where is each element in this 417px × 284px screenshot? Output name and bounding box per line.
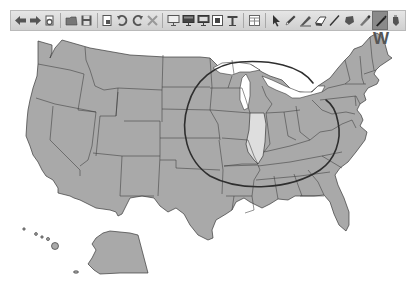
arrow-right-icon [29, 14, 42, 27]
table-icon [248, 14, 261, 27]
new-page-button[interactable] [101, 12, 116, 29]
marker-button[interactable] [372, 11, 389, 30]
forward-button[interactable] [28, 12, 43, 29]
monitor-icon [167, 14, 180, 27]
insert-image-button[interactable] [211, 12, 226, 29]
toolbar-separator [243, 13, 244, 28]
creative-pen-button[interactable] [298, 12, 313, 29]
monitor-filled-icon [182, 14, 195, 27]
redo-button[interactable] [130, 12, 145, 29]
delete-button[interactable] [145, 12, 160, 29]
eraser-icon [314, 14, 327, 27]
highlighter-button[interactable] [357, 12, 372, 29]
calligraphy-pen-icon [299, 14, 312, 27]
text-t-icon [226, 14, 239, 27]
highlighter-icon [358, 14, 371, 27]
text-tool-button[interactable] [225, 12, 240, 29]
eraser-button[interactable] [313, 12, 328, 29]
folder-icon [65, 14, 78, 27]
toolbar [10, 10, 406, 31]
cursor-w-label: W [373, 29, 388, 49]
alaska [88, 231, 148, 274]
continental-us [26, 33, 392, 240]
toolbar-separator [265, 13, 266, 28]
pen-tool-button[interactable] [283, 12, 298, 29]
undo-button[interactable] [115, 12, 130, 29]
marker-icon [374, 14, 387, 27]
shape-icon [343, 14, 356, 27]
presentation-button[interactable] [196, 12, 211, 29]
page-icon [101, 14, 114, 27]
line-tool-button[interactable] [328, 12, 343, 29]
open-button[interactable] [64, 12, 79, 29]
x-icon [146, 14, 159, 27]
line-icon [328, 14, 341, 27]
undo-icon [116, 14, 129, 27]
select-tool-button[interactable] [269, 12, 284, 29]
redo-icon [131, 14, 144, 27]
pen-icon [284, 14, 297, 27]
table-button[interactable] [247, 12, 262, 29]
display-button[interactable] [181, 12, 196, 29]
back-button[interactable] [13, 12, 28, 29]
fill-button[interactable] [388, 12, 403, 29]
toolbar-separator [97, 13, 98, 28]
whiteboard-canvas[interactable]: W [0, 0, 417, 284]
paint-bucket-icon [389, 14, 402, 27]
arrow-left-icon [14, 14, 27, 27]
refresh-button[interactable] [42, 12, 57, 29]
floppy-disk-icon [80, 14, 93, 27]
pointer-icon [270, 14, 283, 27]
us-map[interactable] [0, 0, 417, 284]
refresh-icon [43, 14, 56, 27]
monitor-stand-icon [197, 14, 210, 27]
save-button[interactable] [79, 12, 94, 29]
toolbar-separator [60, 13, 61, 28]
shape-tool-button[interactable] [342, 12, 357, 29]
image-frame-icon [211, 14, 224, 27]
toolbar-separator [162, 13, 163, 28]
screen-shade-button[interactable] [166, 12, 181, 29]
